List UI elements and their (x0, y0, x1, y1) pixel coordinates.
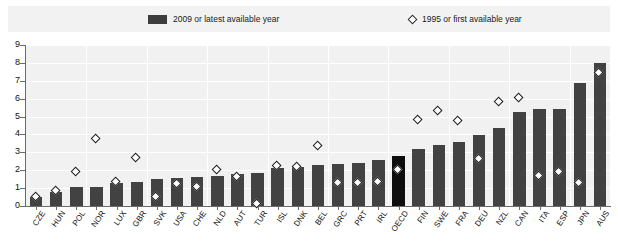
bar-fin (412, 149, 424, 206)
x-axis-tick (600, 207, 601, 210)
x-axis-label-prt: PRT (353, 209, 370, 227)
y-axis-tick (20, 134, 25, 135)
bar-ita (533, 109, 545, 206)
x-axis-tick (237, 207, 238, 210)
diamond-marker-gbr (132, 154, 141, 163)
x-axis-tick (76, 207, 77, 210)
diamond-marker-tur (253, 200, 262, 209)
x-axis-tick (96, 207, 97, 210)
x-axis-tick (217, 207, 218, 210)
x-axis-tick (499, 207, 500, 210)
bar-pol (70, 187, 82, 206)
gridline-horizontal (26, 63, 610, 64)
y-axis-tick (20, 170, 25, 171)
x-axis-tick (519, 207, 520, 210)
bar-fra (453, 142, 465, 206)
diamond-marker-hun (52, 187, 61, 196)
x-axis-tick (177, 207, 178, 210)
x-axis-tick (298, 207, 299, 210)
x-axis-tick (540, 207, 541, 210)
y-axis-tick-label: 3 (4, 147, 20, 156)
x-axis-label-dnk: DNK (292, 209, 309, 228)
gridline-vertical (86, 45, 87, 206)
y-axis-tick (20, 81, 25, 82)
x-axis-label-svk: SVK (152, 209, 169, 228)
y-axis-tick-label: 7 (4, 76, 20, 85)
y-axis-tick-label: 1 (4, 183, 20, 192)
x-axis-label-isl: ISL (275, 209, 289, 224)
diamond-marker-irl (374, 178, 383, 187)
y-axis-tick (20, 152, 25, 153)
diamond-marker-lux (112, 178, 121, 187)
legend-bar-label: 2009 or latest available year (173, 14, 279, 24)
x-axis-tick (378, 207, 379, 210)
diamond-marker-ita (535, 172, 544, 181)
x-axis-tick (560, 207, 561, 210)
gridline-vertical (449, 45, 450, 206)
x-axis-tick (278, 207, 279, 210)
diamond-marker-aus (595, 69, 604, 78)
x-axis-label-nld: NLD (212, 209, 229, 228)
x-axis-tick (399, 207, 400, 210)
x-axis-label-grc: GRC (332, 209, 350, 229)
x-axis-tick (459, 207, 460, 210)
bar-aus (594, 63, 606, 206)
y-axis-tick (20, 206, 25, 207)
diamond-marker-jpn (575, 179, 584, 188)
diamond-marker-fra (454, 117, 463, 126)
y-axis-tick-label: 0 (4, 201, 20, 210)
x-axis-label-bel: BEL (313, 209, 329, 227)
diamond-marker-nld (213, 166, 222, 175)
x-axis-tick (479, 207, 480, 210)
gridline-vertical (207, 45, 208, 206)
x-axis-line (25, 206, 611, 207)
x-axis-label-gbr: GBR (131, 209, 148, 229)
diamond-marker-fin (414, 116, 423, 125)
diamond-marker-usa (173, 180, 182, 189)
bar-gbr (131, 182, 143, 206)
x-axis-label-fra: FRA (454, 209, 471, 228)
y-axis-line (25, 45, 26, 207)
x-axis-tick (36, 207, 37, 210)
diamond-marker-bel (314, 142, 323, 151)
x-axis-tick (137, 207, 138, 210)
bar-isl (271, 168, 283, 206)
y-axis-tick (20, 99, 25, 100)
bar-can (513, 112, 525, 206)
y-axis-tick-label: 5 (4, 112, 20, 121)
diamond-marker-nor (92, 135, 101, 144)
x-axis-tick (580, 207, 581, 210)
x-axis-label-lux: LUX (112, 209, 128, 227)
bar-oecd (392, 156, 404, 206)
bar-bel (312, 165, 324, 206)
diamond-marker-deu (475, 155, 484, 164)
bar-nor (90, 187, 102, 206)
x-axis-label-hun: HUN (50, 209, 67, 229)
gridline-vertical (570, 45, 571, 206)
gridline-vertical (268, 45, 269, 206)
x-axis-label-irl: IRL (375, 209, 390, 225)
legend-item-bars: 2009 or latest available year (148, 6, 279, 32)
x-axis-label-aut: AUT (232, 209, 249, 228)
x-axis-label-esp: ESP (554, 209, 571, 228)
x-axis-label-nzl: NZL (494, 209, 510, 227)
y-axis-tick (20, 45, 25, 46)
y-axis-tick-label: 4 (4, 129, 20, 138)
gridline-vertical (388, 45, 389, 206)
x-axis-label-cze: CZE (31, 209, 48, 228)
diamond-marker-prt (354, 179, 363, 188)
legend-item-diamonds: 1995 or first available year (408, 6, 522, 32)
x-axis-tick (56, 207, 57, 210)
x-axis-tick (338, 207, 339, 210)
bar-nld (211, 176, 223, 206)
x-axis-label-oecd: OECD (389, 209, 410, 233)
bar-swe (433, 145, 445, 206)
gridline-vertical (147, 45, 148, 206)
x-axis-label-che: CHE (191, 209, 208, 228)
x-axis-label-deu: DEU (473, 209, 490, 228)
bar-dnk (292, 167, 304, 206)
x-axis-tick (117, 207, 118, 210)
bar-deu (473, 135, 485, 206)
diamond-marker-grc (334, 179, 343, 188)
x-axis-tick (197, 207, 198, 210)
